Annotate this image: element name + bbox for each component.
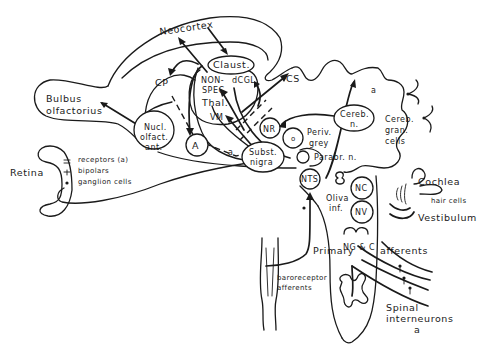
synapse-dot xyxy=(402,276,405,279)
arrowhead xyxy=(168,68,176,76)
label-nc: NC xyxy=(355,184,368,193)
vessel-left xyxy=(260,238,264,330)
label-olfactorius: olfactorius xyxy=(46,105,103,116)
label-nv: NV xyxy=(355,208,367,217)
arrowhead xyxy=(225,115,234,123)
vessel-right-inner xyxy=(272,248,274,296)
claust-to-cp xyxy=(172,61,198,72)
label-parabr: Parabr. n. xyxy=(314,153,357,162)
primary-afferent-2 xyxy=(362,260,428,290)
label-vestibulum: Vestibulum xyxy=(418,212,477,223)
label-cochlea: Cochlea xyxy=(418,176,460,187)
label-hair-cells: hair cells xyxy=(431,197,466,205)
label-spinal-a: a xyxy=(414,324,420,335)
vessel-left-inner xyxy=(266,248,268,296)
gran-cell-dot xyxy=(422,116,425,119)
label-grey: grey xyxy=(309,139,329,148)
label-bulbus: Bulbus xyxy=(46,93,82,104)
gran-branch-2 xyxy=(424,106,433,132)
gran-branch-1 xyxy=(408,80,419,104)
synapse-dot xyxy=(408,286,411,289)
label-olfact: olfact. xyxy=(140,133,168,142)
label-periv: Periv. xyxy=(307,128,332,137)
label-baro-afferents: afferents xyxy=(277,284,312,292)
synapse-dot xyxy=(302,206,305,209)
label-a-mid: a xyxy=(228,148,233,157)
label-o: o xyxy=(291,135,296,143)
brain-pathway-diagram: Neocortex Claust. CP NON- SPEC. Thal. VM… xyxy=(0,0,484,351)
label-nr: NR xyxy=(263,125,276,134)
label-dcgl: dCGL xyxy=(232,76,255,85)
ganglion-dot xyxy=(65,181,68,184)
label-interneurons: interneurons xyxy=(386,313,454,324)
subst-nigra-node xyxy=(242,142,284,172)
nc-to-cochlea xyxy=(390,204,410,210)
label-baroreceptor: baroreceptor xyxy=(277,274,327,282)
arrowhead xyxy=(220,48,228,55)
baroreceptor-to-nts xyxy=(266,196,310,266)
label-receptors: receptors (a) xyxy=(78,156,128,164)
synapse-dot xyxy=(398,264,401,267)
spinal-cord-left xyxy=(318,206,342,338)
label-subst: Subst. xyxy=(249,148,277,157)
hair-cell-arc-3 xyxy=(405,184,407,204)
label-claust: Claust. xyxy=(213,59,250,70)
label-thal: Thal. xyxy=(201,97,228,108)
label-nts: NTS xyxy=(301,175,318,184)
label-afferents: afferents xyxy=(380,245,428,256)
label-ant: ant. xyxy=(145,143,163,152)
label-cereb-gran-1: Cereb. xyxy=(385,115,414,124)
spinal-grey-matter xyxy=(340,274,368,307)
label-inf: inf. xyxy=(329,204,343,213)
label-amygdala: A xyxy=(192,140,199,151)
label-cereb-gran-2: gran. xyxy=(385,126,408,135)
afferent-entry xyxy=(352,266,353,296)
to-dcgl xyxy=(256,84,260,106)
label-thal-nonspec: NON- xyxy=(201,76,224,85)
label-cereb-gran-3: cells xyxy=(385,137,405,146)
label-cs: CS xyxy=(286,73,300,84)
gran-cell-dot xyxy=(406,92,409,95)
label-thal-spec: SPEC. xyxy=(202,86,228,95)
label-primary: Primary xyxy=(313,245,354,256)
label-nucl: Nucl. xyxy=(144,123,167,132)
label-cereb: Cereb. xyxy=(340,110,369,119)
hair-cell-arc-1 xyxy=(397,188,399,200)
label-a-upper: a xyxy=(371,86,376,95)
cereb-to-nr xyxy=(282,114,334,124)
bipolar-glyph xyxy=(64,170,70,175)
label-oliva: Oliva xyxy=(326,194,349,203)
arrowhead xyxy=(178,37,186,45)
retina-outline xyxy=(38,146,72,216)
label-retina: Retina xyxy=(10,167,44,178)
hair-cell-arc-2 xyxy=(401,186,403,202)
label-ganglion: ganglion cells xyxy=(78,178,132,186)
label-bipolars: bipolars xyxy=(78,167,109,175)
ngc-arcs xyxy=(344,228,368,234)
label-nigra: nigra xyxy=(250,158,273,167)
neocortex-to-claust xyxy=(208,28,226,52)
label-cereb-n: n. xyxy=(350,120,359,129)
label-neocortex: Neocortex xyxy=(159,19,214,37)
label-spinal: Spinal xyxy=(386,302,419,313)
parabr-node xyxy=(297,151,309,163)
label-vm: VM xyxy=(210,113,223,122)
nv-to-vestibulum xyxy=(390,212,414,218)
oliva-shape xyxy=(336,172,344,184)
label-cp: CP xyxy=(155,77,169,88)
